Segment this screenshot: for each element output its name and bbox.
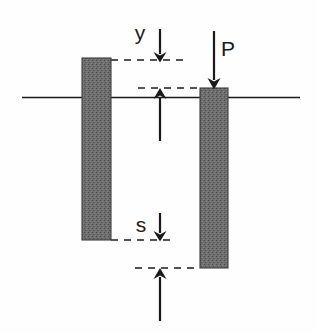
label-s: s [136, 213, 147, 236]
upper-reaction-arrow-group [154, 88, 167, 141]
diagram-canvas: y P s [0, 0, 317, 333]
left-bar [82, 58, 111, 240]
lower-reaction-arrow-group [154, 268, 167, 321]
p-arrow-group [208, 31, 221, 90]
label-y: y [135, 21, 146, 44]
y-arrow-group [154, 29, 167, 63]
mechanics-diagram: y P s [0, 0, 317, 333]
label-p: P [221, 37, 235, 60]
s-arrow-group [154, 213, 167, 242]
right-bar [200, 88, 228, 268]
